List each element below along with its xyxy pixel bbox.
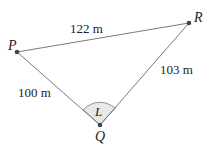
diagram-canvas: P R Q L 122 m 100 m 103 m [0, 0, 215, 147]
side-label-pq: 100 m [18, 85, 51, 100]
angle-label: L [94, 104, 102, 119]
label-q: Q [95, 129, 105, 144]
side-pr [17, 23, 189, 52]
triangle-diagram: P R Q L 122 m 100 m 103 m [0, 0, 215, 147]
point-q [98, 123, 103, 128]
label-p: P [7, 38, 17, 53]
label-r: R [193, 10, 203, 25]
side-label-pr: 122 m [70, 21, 103, 36]
point-r [187, 21, 192, 26]
side-label-qr: 103 m [160, 62, 193, 77]
